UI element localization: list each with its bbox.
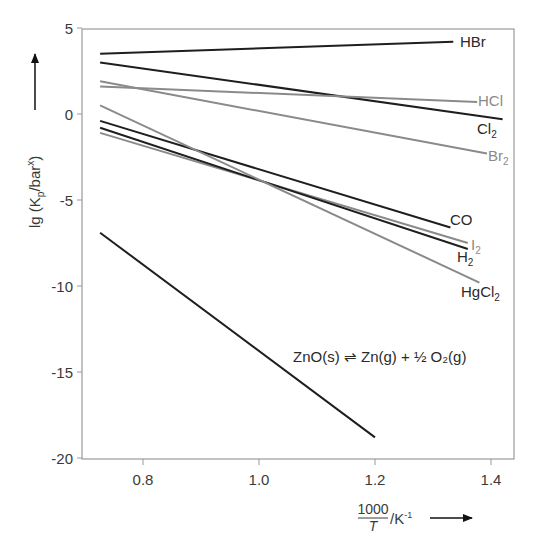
svg-text:lg (Kp/barx): lg (Kp/barx)	[25, 156, 46, 228]
series-line-h2	[100, 128, 468, 249]
y-tick-label: -20	[51, 450, 73, 467]
series-layer	[100, 42, 503, 438]
series-line-hgcl2	[100, 105, 479, 282]
y-tick-label: -15	[51, 364, 73, 381]
y-axis-label: lg (Kp/barx)	[25, 54, 46, 228]
series-label-hcl: HCl	[478, 92, 503, 109]
series-label-hgcl2: HgCl2	[461, 283, 500, 303]
series-label-hbr: HBr	[460, 33, 486, 50]
series-label-br2: Br2	[488, 147, 509, 167]
series-line-hbr	[100, 42, 453, 54]
series-label-cl2: Cl2	[477, 120, 497, 140]
x-tick-label: 1.0	[249, 471, 270, 488]
series-line-zno	[100, 233, 375, 438]
series-label-co: CO	[450, 211, 473, 228]
svg-text:T: T	[369, 518, 379, 534]
y-tick-label: -5	[60, 192, 73, 209]
plot-frame	[82, 29, 514, 459]
x-tick-label: 1.2	[365, 471, 386, 488]
x-tick-label: 1.4	[481, 471, 502, 488]
svg-text:1000: 1000	[357, 501, 388, 517]
reaction-annotation: ZnO(s) ⇌ Zn(g) + ½ O₂(g)	[293, 348, 466, 365]
series-label-i2: I2	[471, 236, 481, 256]
y-axis: 5 0 -5 -10 -15 -20	[51, 20, 82, 467]
y-tick-label: 0	[65, 106, 73, 123]
y-tick-label: -10	[51, 278, 73, 295]
x-axis: 0.8 1.0 1.2 1.4	[133, 459, 502, 488]
x-axis-label: 1000 T /K-1	[357, 501, 472, 534]
x-tick-label: 0.8	[133, 471, 154, 488]
series-line-br2	[100, 81, 487, 153]
series-line-cl2	[100, 62, 503, 119]
y-tick-label: 5	[65, 20, 73, 37]
chart: 5 0 -5 -10 -15 -20 0.8 1.0 1.2 1.4 lg (K…	[0, 0, 536, 543]
svg-text:/K-1: /K-1	[390, 510, 412, 527]
series-labels: HBr HCl Cl2 Br2 CO I2 H2 HgCl2	[450, 33, 509, 303]
